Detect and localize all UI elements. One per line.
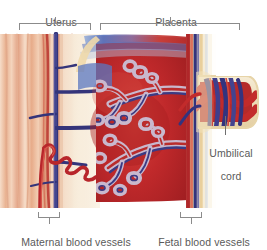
bracket-placenta (100, 23, 240, 30)
label-maternal-blood-vessels-text: Maternal blood vessels (21, 236, 131, 248)
label-umbilical-cord: Umbilical cord (186, 136, 264, 194)
leader-fetal-blood-vessels (191, 218, 192, 224)
label-maternal-blood-vessels: Maternal blood vessels (0, 225, 140, 250)
label-fetal-blood-vessels-text: Fetal blood vessels (158, 236, 250, 248)
label-umbilical-cord-line1: Umbilical (209, 147, 253, 159)
label-fetal-blood-vessels: Fetal blood vessels (136, 225, 260, 250)
umbilical-cord (196, 71, 258, 133)
leader-maternal-blood-vessels (49, 218, 50, 224)
bracket-uterus (19, 23, 91, 30)
leader-umbilical-cord (225, 116, 226, 135)
label-umbilical-cord-line2: cord (221, 170, 242, 182)
